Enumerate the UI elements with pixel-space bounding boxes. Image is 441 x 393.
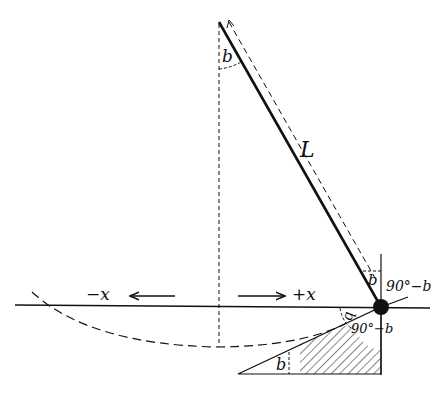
angle-top-label: b [222, 46, 233, 66]
angle-bob-left-label: b [368, 271, 378, 289]
horizontal-axis [15, 305, 430, 308]
angle-lower-right-label: 90°−b [351, 321, 393, 336]
pendulum-bob [373, 299, 389, 315]
neg-x-label: −x [86, 284, 110, 304]
pendulum-diagram: b L b 90°−b b 90°−b b −x +x [0, 0, 441, 393]
pos-x-label: +x [292, 284, 316, 304]
length-label: L [299, 137, 315, 162]
angle-triangle-label: b [276, 355, 286, 374]
pendulum-rod [219, 22, 381, 307]
angle-bob-right-label: 90°−b [386, 278, 432, 294]
